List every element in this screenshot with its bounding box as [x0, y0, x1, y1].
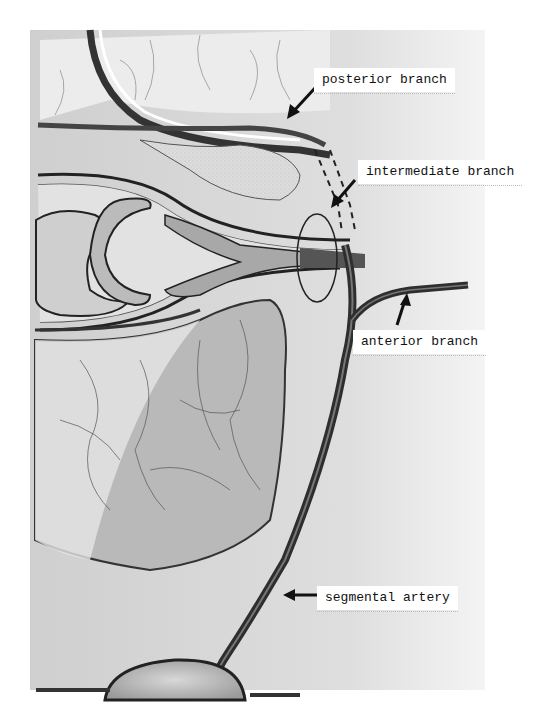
anatomical-figure: posterior branch intermediate branch ant… — [0, 0, 558, 726]
illustration — [0, 0, 558, 726]
label-posterior-branch: posterior branch — [314, 68, 455, 92]
label-segmental-artery: segmental artery — [317, 586, 458, 610]
label-intermediate-branch: intermediate branch — [358, 160, 522, 184]
upper-tissue — [40, 30, 330, 120]
label-anterior-branch: anterior branch — [353, 330, 486, 354]
